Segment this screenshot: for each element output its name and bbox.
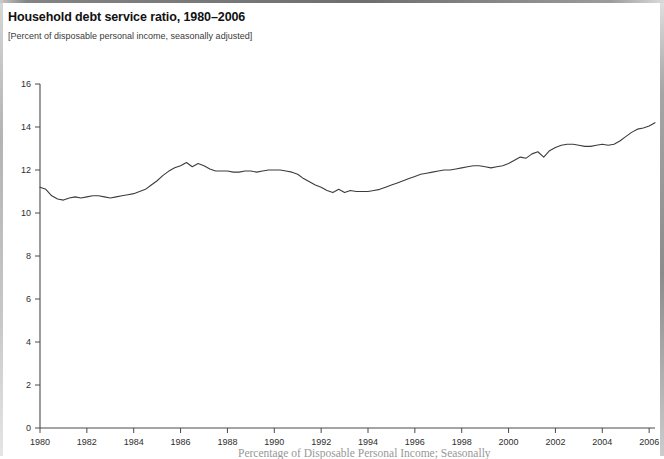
- x-tick-label: 1998: [452, 437, 472, 447]
- x-tick-label: 1986: [171, 437, 191, 447]
- x-tick-label: 1982: [77, 437, 97, 447]
- x-tick-label: 1980: [30, 437, 50, 447]
- x-tick-label: 1990: [264, 437, 284, 447]
- x-tick-label: 2006: [639, 437, 659, 447]
- x-tick-label: 2002: [545, 437, 565, 447]
- x-tick-label: 1988: [217, 437, 237, 447]
- y-tick-label: 16: [21, 79, 31, 89]
- y-tick-label: 14: [21, 122, 31, 132]
- y-tick-label: 12: [21, 165, 31, 175]
- x-tick-label: 2000: [499, 437, 519, 447]
- y-tick-label: 10: [21, 208, 31, 218]
- x-tick-label: 1994: [358, 437, 378, 447]
- data-series-line: [40, 123, 655, 200]
- x-tick-label: 1984: [124, 437, 144, 447]
- x-axis: 1980198219841986198819901992199419961998…: [30, 428, 659, 447]
- source-note: Percentage of Disposable Personal Income…: [238, 447, 491, 459]
- x-tick-label: 2004: [592, 437, 612, 447]
- x-tick-label: 1996: [405, 437, 425, 447]
- y-tick-label: 4: [26, 337, 31, 347]
- y-tick-label: 2: [26, 380, 31, 390]
- y-tick-label: 6: [26, 294, 31, 304]
- y-tick-label: 8: [26, 251, 31, 261]
- y-tick-label: 0: [26, 423, 31, 433]
- x-tick-label: 1992: [311, 437, 331, 447]
- y-axis: 0246810121416: [21, 79, 40, 433]
